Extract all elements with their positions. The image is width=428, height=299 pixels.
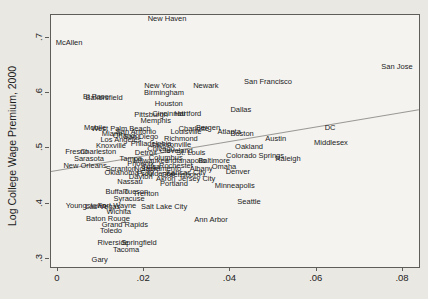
scatter-plot-figure: Log College Wage Premium, 2000 New Haven… <box>0 0 428 299</box>
city-label: Birmingham <box>144 89 184 97</box>
city-label: Austin <box>265 135 286 143</box>
y-tick-mark <box>45 258 49 259</box>
y-tick-label: .6 <box>33 88 44 96</box>
y-tick-mark <box>45 203 49 204</box>
city-label: Raleigh <box>275 155 300 163</box>
city-label: Dallas <box>230 106 251 114</box>
city-label: San Francisco <box>244 78 292 86</box>
city-label: Newark <box>193 82 218 90</box>
x-tick-mark <box>229 267 230 271</box>
city-label: Bakersfield <box>86 94 123 102</box>
x-tick-label: .06 <box>309 272 322 283</box>
city-label: Gary <box>92 256 108 264</box>
x-tick-label: .08 <box>395 272 408 283</box>
city-label: Minneapolis <box>215 182 255 190</box>
city-label: Nassau <box>117 178 142 186</box>
city-label: Salt Lake City <box>141 203 187 211</box>
y-tick-label: .7 <box>33 33 44 41</box>
city-label: Hartford <box>174 110 201 118</box>
city-label: Houston <box>155 100 183 108</box>
city-label: San Jose <box>381 63 412 71</box>
y-tick-label: .5 <box>33 144 44 152</box>
city-label: Toledo <box>100 227 122 235</box>
x-tick-label: .04 <box>223 272 236 283</box>
city-label: New Orleans <box>63 162 106 170</box>
city-label: Seattle <box>237 198 260 206</box>
y-tick-mark <box>45 92 49 93</box>
y-tick-label: .4 <box>33 199 44 207</box>
x-tick-mark <box>57 267 58 271</box>
city-label: Ann Arbor <box>194 216 227 224</box>
y-tick-mark <box>45 37 49 38</box>
y-tick-label: .3 <box>33 254 44 262</box>
city-label: Tacoma <box>113 246 139 254</box>
x-tick-label: 0 <box>54 272 59 283</box>
x-tick-label: .02 <box>137 272 150 283</box>
city-label: New Haven <box>148 15 187 23</box>
city-label: Middlesex <box>314 139 348 147</box>
city-label: Portland <box>160 180 188 188</box>
city-label: Denver <box>226 168 250 176</box>
city-label: DC <box>325 124 336 132</box>
city-label: Boston <box>230 130 253 138</box>
x-tick-mark <box>143 267 144 271</box>
x-tick-mark <box>316 267 317 271</box>
city-label: Oakland <box>235 143 263 151</box>
city-label: McAllen <box>56 39 83 47</box>
y-tick-mark <box>45 147 49 148</box>
y-axis-title: Log College Wage Premium, 2000 <box>6 66 18 226</box>
x-tick-mark <box>402 267 403 271</box>
plot-area: New HavenMcAllenSan JoseSan FranciscoNew… <box>50 14 420 268</box>
